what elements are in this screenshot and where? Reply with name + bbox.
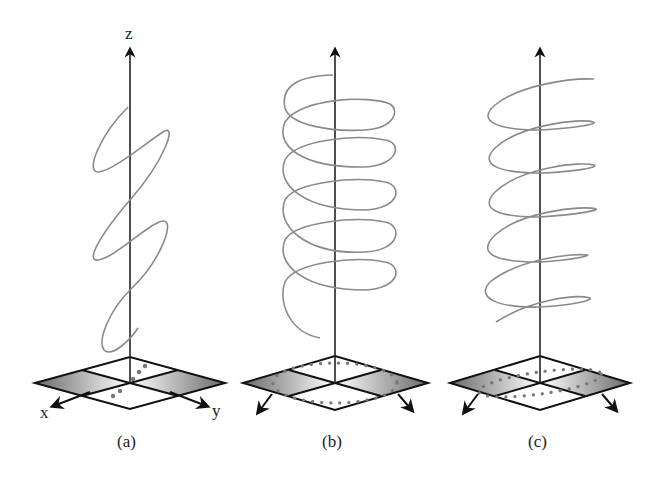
y-axis-label: y bbox=[212, 401, 221, 420]
caption-a: (a) bbox=[117, 432, 136, 451]
elliptical-helix-curve bbox=[485, 79, 596, 322]
x-axis-label: x bbox=[40, 403, 49, 422]
x-axis bbox=[260, 394, 272, 410]
y-axis bbox=[602, 394, 614, 408]
y-axis bbox=[398, 394, 410, 408]
wave-curve bbox=[93, 107, 169, 352]
helix-curve bbox=[283, 75, 396, 338]
caption-b: (b) bbox=[322, 432, 342, 451]
panel-c: (c) bbox=[450, 52, 630, 451]
panel-a: x y z (a) bbox=[35, 24, 225, 451]
panel-b: (b) bbox=[243, 52, 428, 451]
z-axis-label: z bbox=[125, 24, 133, 43]
caption-c: (c) bbox=[528, 432, 547, 451]
x-axis bbox=[466, 394, 478, 410]
